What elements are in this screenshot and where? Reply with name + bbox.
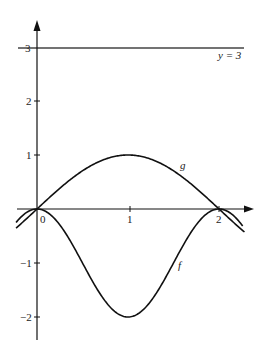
x-axis-arrow-icon [244, 206, 254, 213]
y-tick-2: 2 [26, 95, 32, 107]
x-tick-2: 2 [216, 213, 222, 225]
y-axis-arrow-icon [34, 20, 41, 31]
function-graph: 3 2 1 −1 −2 0 1 2 y = 3 g f [0, 0, 266, 350]
y-tick-3: 3 [25, 42, 31, 54]
x-tick-0: 0 [40, 213, 46, 225]
curve-label-f: f [178, 259, 183, 271]
y-tick-minus-2: −2 [20, 311, 32, 323]
y-tick-1: 1 [26, 149, 32, 161]
line-label-y-equals-3: y = 3 [217, 49, 242, 61]
x-tick-1: 1 [127, 213, 133, 225]
y-tick-minus-1: −1 [20, 257, 32, 269]
curve-f [16, 209, 243, 317]
curve-label-g: g [180, 159, 186, 171]
